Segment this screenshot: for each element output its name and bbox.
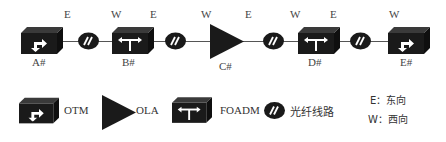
otm-icon [19,97,59,124]
legend-ola [102,95,136,130]
fiber-icon [78,32,99,50]
node-b-foadm [112,27,154,54]
legend-fiber [264,101,285,120]
direction-label-c-east: E [245,8,252,20]
fiber-link-1 [78,32,99,50]
ola-icon [102,95,136,130]
foadm-icon [298,27,340,54]
node-label-c: C# [219,60,232,72]
otm-icon [388,27,430,54]
direction-label-b-west: W [111,8,121,20]
fiber-icon [264,101,285,120]
node-c-ola [210,24,244,60]
fiber-link-4 [350,32,371,50]
foadm-icon [172,97,212,123]
legend-fiber-label: 光纤线路 [290,103,334,119]
legend-foadm [172,97,212,123]
node-label-b: B# [122,56,135,68]
ola-icon [210,24,244,60]
legend-foadm-label: FOADM [220,104,260,116]
legend-otm-label: OTM [64,104,88,116]
direction-label-a-east: E [64,8,71,20]
node-a-otm [21,27,63,54]
fiber-link-2 [165,32,186,50]
fiber-icon [263,32,284,50]
fiber-icon [350,32,371,50]
direction-label-c-west: W [201,8,211,20]
legend-ola-label: OLA [136,104,159,116]
foadm-icon [112,27,154,54]
node-e-otm [388,27,430,54]
legend-west: W：西向 [368,111,408,126]
direction-label-e-west: W [389,8,399,20]
direction-label-b-east: E [150,8,157,20]
fiber-icon [165,32,186,50]
direction-label-d-west: W [290,8,300,20]
otm-icon [21,27,63,54]
node-label-a: A# [32,56,45,68]
node-d-foadm [298,27,340,54]
node-label-e: E# [400,56,412,68]
node-label-d: D# [308,56,321,68]
direction-label-d-east: E [330,8,337,20]
legend-east: E：东向 [370,92,406,107]
legend-otm [19,97,59,124]
fiber-link-3 [263,32,284,50]
